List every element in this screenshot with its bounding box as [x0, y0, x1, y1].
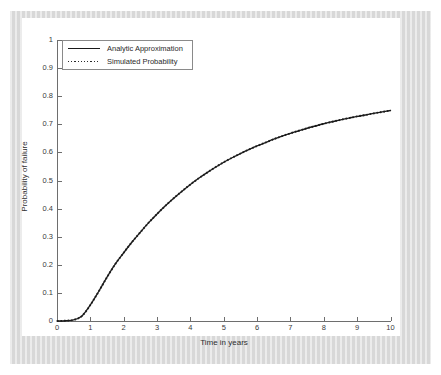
- curve-simulated-probability: [57, 111, 391, 321]
- legend-entry: Analytic Approximation: [67, 42, 190, 55]
- legend-entry-label: Simulated Probability: [107, 57, 177, 66]
- curve-analytic-approximation: [57, 111, 391, 321]
- legend-entry-label: Analytic Approximation: [107, 44, 183, 53]
- legend-line-solid-icon: [67, 45, 101, 53]
- plot-area: 00.10.20.30.40.50.60.70.80.91 0123456789…: [0, 0, 441, 375]
- legend-line-dotted-icon: [67, 58, 101, 66]
- legend-entry: Simulated Probability: [67, 55, 190, 68]
- legend: Analytic Approximation Simulated Probabi…: [62, 40, 193, 70]
